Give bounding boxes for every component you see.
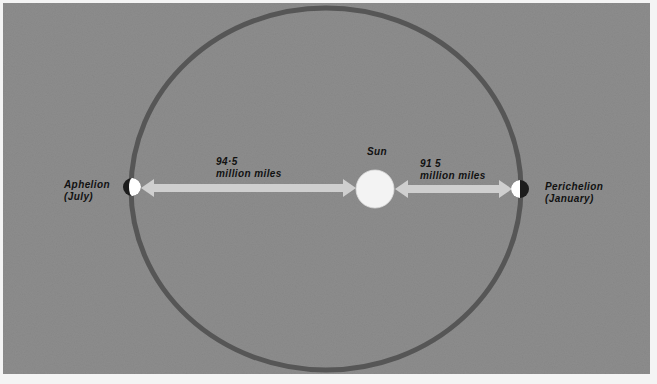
perihelion-distance-unit: million miles [420, 170, 486, 182]
perihelion-label-line2: (January) [545, 193, 603, 205]
sun-icon [356, 170, 394, 208]
page: Sun Aphelion (July) 94·5 million miles 9… [0, 0, 657, 384]
perihelion-distance-label: 91 5 million miles [420, 158, 486, 182]
aphelion-distance-label: 94·5 million miles [216, 156, 282, 180]
aphelion-label: Aphelion (July) [64, 179, 110, 203]
aphelion-distance-value: 94·5 [216, 156, 282, 168]
diagram-panel: Sun Aphelion (July) 94·5 million miles 9… [3, 3, 650, 374]
sun-label: Sun [367, 146, 387, 158]
aphelion-label-line1: Aphelion [64, 179, 110, 191]
perihelion-label: Perichelion (January) [545, 181, 603, 205]
earth-perihelion-icon [511, 180, 529, 198]
earth-aphelion-icon [123, 178, 141, 196]
perihelion-label-line1: Perichelion [545, 181, 603, 193]
page-margin-bottom [0, 374, 657, 384]
aphelion-label-line2: (July) [64, 191, 110, 203]
perihelion-distance-value: 91 5 [420, 158, 486, 170]
sun-label-text: Sun [367, 146, 387, 158]
aphelion-distance-unit: million miles [216, 168, 282, 180]
